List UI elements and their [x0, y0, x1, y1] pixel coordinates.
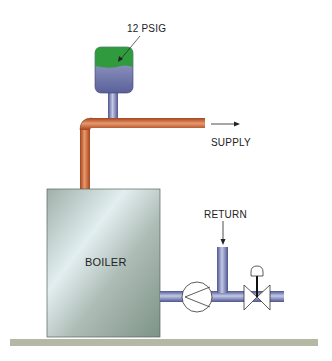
- ground-floor: [10, 339, 318, 346]
- supply-pipe: [80, 118, 205, 190]
- pressure-gauge: [95, 36, 140, 93]
- gauge-label: 12 PSIG: [127, 23, 166, 34]
- gauge-stem: [108, 91, 118, 118]
- pump-icon: [182, 282, 212, 312]
- return-label: RETURN: [204, 209, 247, 220]
- return-arrow-icon: [221, 221, 226, 245]
- boiler-label: BOILER: [85, 256, 127, 268]
- supply-label: SUPPLY: [211, 137, 251, 148]
- boiler-diagram: [0, 0, 332, 361]
- supply-arrow-icon: [211, 122, 240, 127]
- control-valve-icon: [244, 266, 270, 310]
